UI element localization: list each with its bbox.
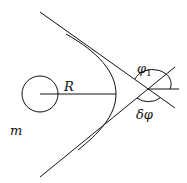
mass-label-text: m xyxy=(10,123,22,138)
angle-deltaphi-arc xyxy=(137,98,160,102)
diagram-canvas: R φ1 δφ m xyxy=(0,0,187,183)
phi1-label: φ1 xyxy=(137,62,152,78)
radius-label-text: R xyxy=(64,79,74,94)
delta-phi-label: δφ xyxy=(136,108,153,121)
delta-phi-text: δφ xyxy=(136,107,153,122)
phi-subscript: 1 xyxy=(146,68,152,78)
radius-label: R xyxy=(64,80,74,93)
trajectory-figure xyxy=(0,0,187,183)
outgoing-asymptote xyxy=(40,67,175,177)
phi-symbol: φ xyxy=(137,61,146,76)
mass-label: m xyxy=(10,124,22,137)
